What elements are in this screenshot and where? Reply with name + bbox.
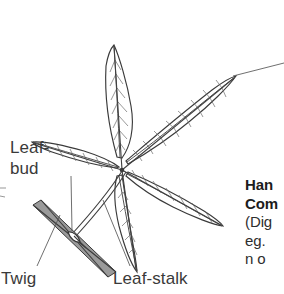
label-leaf-stalk: Leaf-stalk	[113, 268, 188, 289]
caption-detail-line3: n o	[245, 250, 284, 269]
leader-line-leaf-bud	[71, 176, 72, 231]
label-leaf-bud-line1: Leaf-	[10, 137, 49, 158]
leader-line-twig	[37, 215, 60, 266]
leaflet-upper-right	[126, 63, 284, 164]
caption-block: Han Com (Dig eg. n o	[245, 176, 284, 269]
caption-heading-line2: Com	[245, 195, 284, 214]
caption-heading-line1: Han	[245, 176, 284, 195]
label-leaf-bud: Leaf- bud	[10, 137, 49, 179]
figure-page: .blade { fill:#ffffff; stroke:#3a3a3a; s…	[0, 0, 284, 294]
leader-line-upper-right	[233, 63, 284, 76]
caption-detail-line1: (Dig	[245, 213, 284, 232]
label-twig: Twig	[1, 268, 36, 289]
leaflet-upper-left	[106, 45, 133, 158]
caption-detail-line2: eg.	[245, 232, 284, 251]
label-leaf-bud-line2: bud	[10, 158, 49, 179]
margin-tick-marks	[0, 188, 6, 197]
